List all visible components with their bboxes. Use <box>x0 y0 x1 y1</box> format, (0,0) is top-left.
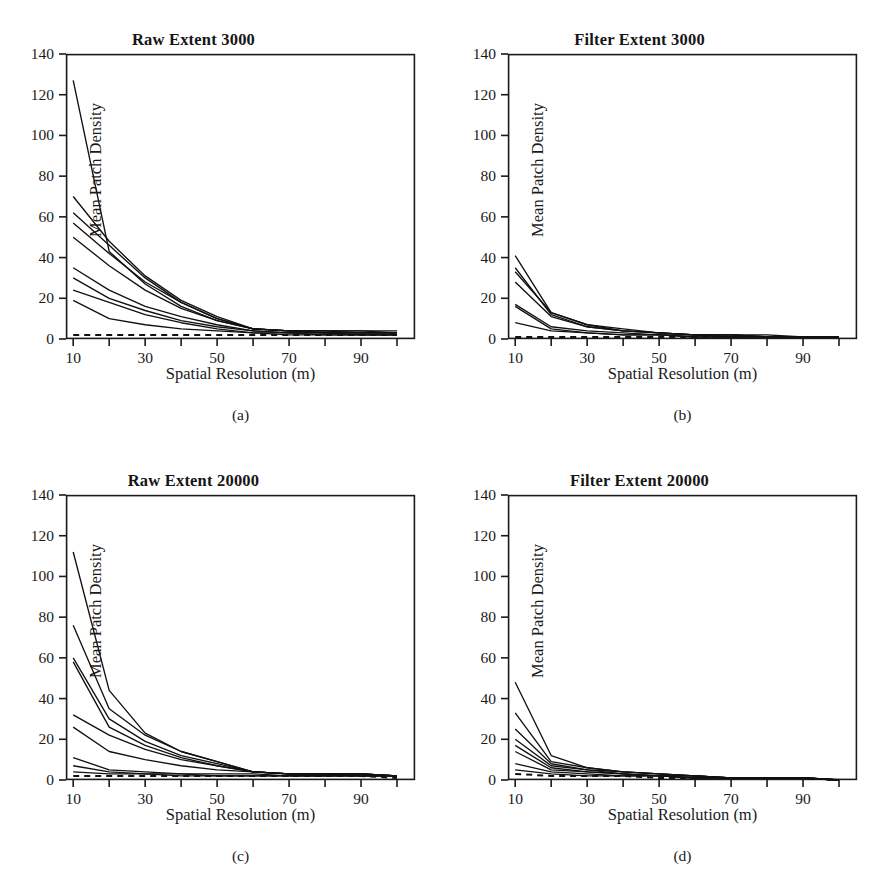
panel-a-ytick-100: 100 <box>14 127 54 143</box>
panel-c-xtick-50: 50 <box>197 791 237 807</box>
panel-c-series-s4 <box>73 662 397 776</box>
panel-d-xtick-50: 50 <box>639 791 679 807</box>
panel-a-ytick-120: 120 <box>14 87 54 103</box>
panel-a-ylabel: Mean Patch Density <box>86 25 106 315</box>
panel-c-ytick-120: 120 <box>14 528 54 544</box>
panel-d-ytick-20: 20 <box>456 731 496 747</box>
panel-b-series-s2 <box>515 268 839 337</box>
panel-a-xtick-50: 50 <box>197 350 237 366</box>
panel-c-ytick-40: 40 <box>14 691 54 707</box>
panel-c-series-s3 <box>73 658 397 776</box>
panel-d-xtick-10: 10 <box>495 791 535 807</box>
panel-a-svg <box>66 54 415 339</box>
panel-b-title: Filter Extent 3000 <box>446 30 891 50</box>
panel-c-caption: (c) <box>66 847 415 865</box>
panel-b-xtick-50: 50 <box>639 350 679 366</box>
panel-b-series-s3 <box>515 272 839 337</box>
panel-a-ytick-80: 80 <box>14 168 54 184</box>
panel-c-plot-area: Mean Patch Density Spatial Resolution (m… <box>66 495 415 780</box>
panel-b-xtick-70: 70 <box>711 350 751 366</box>
panel-b-xtick-10: 10 <box>495 350 535 366</box>
panel-d-xlabel: Spatial Resolution (m) <box>508 805 857 825</box>
panel-a-ytick-20: 20 <box>14 290 54 306</box>
panel-a-xtick-90: 90 <box>341 350 381 366</box>
panel-d-xtick-30: 30 <box>567 791 607 807</box>
panel-b-plot-area: Mean Patch Density Spatial Resolution (m… <box>508 54 857 339</box>
panel-c-ytick-20: 20 <box>14 731 54 747</box>
figure-four-panel-line-charts: Raw Extent 3000 Mean Patch Density Spati… <box>0 0 891 883</box>
panel-c-ytick-100: 100 <box>14 568 54 584</box>
panel-c: Raw Extent 20000 Mean Patch Density Spat… <box>0 441 445 882</box>
panel-d-ytick-120: 120 <box>456 528 496 544</box>
panel-c-xtick-10: 10 <box>53 791 93 807</box>
panel-d-ytick-0: 0 <box>456 772 496 788</box>
panel-c-series-s1 <box>73 552 397 776</box>
panel-d-ytick-140: 140 <box>456 487 496 503</box>
panel-c-xtick-90: 90 <box>341 791 381 807</box>
panel-d-svg <box>508 495 857 780</box>
panel-a-series-s1 <box>73 80 397 330</box>
panel-c-title: Raw Extent 20000 <box>0 471 445 491</box>
panel-b-ytick-60: 60 <box>456 209 496 225</box>
panel-b-caption: (b) <box>508 406 857 424</box>
panel-d-title: Filter Extent 20000 <box>446 471 891 491</box>
panel-a-ytick-140: 140 <box>14 46 54 62</box>
panel-c-xlabel: Spatial Resolution (m) <box>66 805 415 825</box>
panel-c-ytick-140: 140 <box>14 487 54 503</box>
panel-a-ytick-60: 60 <box>14 209 54 225</box>
panel-d: Filter Extent 20000 Mean Patch Density S… <box>446 441 891 882</box>
panel-d-xtick-90: 90 <box>783 791 823 807</box>
panel-b-ytick-140: 140 <box>456 46 496 62</box>
panel-a-xtick-10: 10 <box>53 350 93 366</box>
panel-b-xtick-30: 30 <box>567 350 607 366</box>
panel-a-series-s9 <box>73 300 397 335</box>
panel-a-series-s5 <box>73 237 397 333</box>
panel-a: Raw Extent 3000 Mean Patch Density Spati… <box>0 0 445 441</box>
panel-a-xtick-30: 30 <box>125 350 165 366</box>
panel-a-ytick-40: 40 <box>14 250 54 266</box>
panel-d-ytick-60: 60 <box>456 650 496 666</box>
panel-b-xlabel: Spatial Resolution (m) <box>508 364 857 384</box>
panel-a-series-s2 <box>73 197 397 333</box>
panel-c-ytick-80: 80 <box>14 609 54 625</box>
panel-b: Filter Extent 3000 Mean Patch Density Sp… <box>446 0 891 441</box>
panel-c-svg <box>66 495 415 780</box>
panel-a-xtick-70: 70 <box>269 350 309 366</box>
panel-c-ytick-60: 60 <box>14 650 54 666</box>
panel-c-series-s2 <box>73 625 397 776</box>
panel-b-ytick-40: 40 <box>456 250 496 266</box>
panel-a-series-s3 <box>73 213 397 333</box>
panel-d-xtick-70: 70 <box>711 791 751 807</box>
panel-c-xtick-30: 30 <box>125 791 165 807</box>
panel-a-caption: (a) <box>66 406 415 424</box>
panel-c-ylabel: Mean Patch Density <box>86 466 106 756</box>
panel-a-series-s4 <box>73 223 397 333</box>
panel-b-ytick-100: 100 <box>456 127 496 143</box>
panel-b-xtick-90: 90 <box>783 350 823 366</box>
panel-b-ytick-0: 0 <box>456 331 496 347</box>
panel-a-ytick-0: 0 <box>14 331 54 347</box>
panel-b-ytick-80: 80 <box>456 168 496 184</box>
panel-a-plot-area: Mean Patch Density Spatial Resolution (m… <box>66 54 415 339</box>
panel-d-ytick-80: 80 <box>456 609 496 625</box>
panel-b-ytick-20: 20 <box>456 290 496 306</box>
panel-d-ytick-40: 40 <box>456 691 496 707</box>
panel-a-xlabel: Spatial Resolution (m) <box>66 364 415 384</box>
panel-b-series-s6 <box>515 306 839 337</box>
panel-d-plot-area: Mean Patch Density Spatial Resolution (m… <box>508 495 857 780</box>
panel-c-xtick-70: 70 <box>269 791 309 807</box>
panel-b-svg <box>508 54 857 339</box>
panel-d-ylabel: Mean Patch Density <box>528 466 548 756</box>
panel-a-title: Raw Extent 3000 <box>0 30 445 50</box>
panel-b-series-s1 <box>515 256 839 337</box>
panel-b-ylabel: Mean Patch Density <box>528 25 548 315</box>
panel-b-ytick-120: 120 <box>456 87 496 103</box>
panel-c-ytick-0: 0 <box>14 772 54 788</box>
panel-d-caption: (d) <box>508 847 857 865</box>
panel-d-ytick-100: 100 <box>456 568 496 584</box>
